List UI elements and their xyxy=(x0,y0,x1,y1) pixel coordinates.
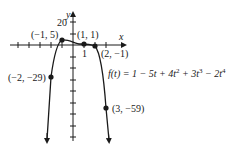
label-1-1: (1, 1) xyxy=(77,29,99,41)
function-curve xyxy=(47,40,109,140)
point-neg2-neg29 xyxy=(48,74,53,79)
label-neg2-neg29: (−2, −29) xyxy=(8,72,46,84)
x-tick-label: 1 xyxy=(82,48,87,59)
y-tick-label: 20 xyxy=(57,17,67,28)
function-equation: f(t) = 1 − 5t + 4t2 + 3t3 − 2t4 xyxy=(108,67,226,80)
label-3-neg59: (3, −59) xyxy=(112,103,144,115)
point-2-neg1 xyxy=(92,43,97,48)
x-axis-label: x xyxy=(118,31,124,42)
polynomial-graph: y x 20 1 (−1, 5) (1, 1) (2, −1) (−2, −29… xyxy=(0,0,234,147)
point-neg1-5 xyxy=(59,37,64,42)
label-neg1-5: (−1, 5) xyxy=(31,29,58,41)
label-2-neg1: (2, −1) xyxy=(101,48,128,60)
y-axis xyxy=(70,14,76,141)
point-3-neg59 xyxy=(103,105,108,110)
point-1-1 xyxy=(81,41,86,46)
